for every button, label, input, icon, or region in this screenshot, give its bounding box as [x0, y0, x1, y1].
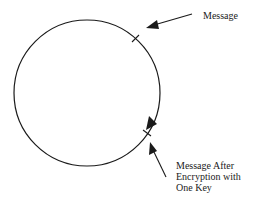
message-pointer-arrow	[146, 14, 192, 29]
label-after-line1: Message After	[176, 160, 235, 171]
label-after-line3: One Key	[176, 182, 212, 193]
encrypted-pointer-arrow	[149, 142, 166, 177]
encryption-cycle-diagram: Message Message After Encryption with On…	[0, 0, 258, 207]
cycle-circle	[14, 20, 160, 166]
label-after-line2: Encryption with	[176, 171, 241, 182]
label-message: Message	[203, 10, 239, 21]
